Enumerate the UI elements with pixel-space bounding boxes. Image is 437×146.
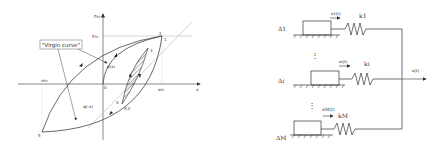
point-3-label: 3 bbox=[150, 48, 153, 53]
x-tick-pos-label: xm bbox=[158, 87, 164, 92]
xi-label: xi(t) bbox=[339, 59, 348, 64]
origin-label: 0 bbox=[104, 85, 107, 90]
xM-label: xM(t) bbox=[322, 107, 335, 112]
delta-M-label: ΔM bbox=[276, 134, 286, 141]
output-label: x(t) bbox=[412, 68, 419, 73]
point-4-label: 4 bbox=[116, 100, 119, 105]
phi-x-label: φ(x) bbox=[107, 64, 116, 69]
spring-slider-model: Δ1 x1(t) k1 ⋮ Δi xi(t) ki x(t) ⋮ ΔM xM(t… bbox=[276, 11, 426, 141]
ellipsis-2: ⋮ bbox=[308, 101, 316, 110]
point-1-label: 1 bbox=[164, 37, 167, 42]
x1-label: x1(t) bbox=[331, 11, 341, 16]
virgin-curve-label: "Virgin curve" bbox=[42, 42, 80, 49]
x-axis-label: x bbox=[196, 87, 199, 92]
diagram-canvas: "Virgin curve" Fm Fm x xm -xm 0 φ(x) -φ(… bbox=[0, 0, 437, 146]
y-tick-label: Fm bbox=[92, 34, 98, 39]
minor-loop bbox=[122, 48, 148, 104]
point-42-label: 4,2 bbox=[124, 106, 131, 111]
k1-label: k1 bbox=[359, 12, 366, 19]
hysteresis-plot: "Virgin curve" Fm Fm x xm -xm 0 φ(x) -φ(… bbox=[18, 14, 200, 140]
element-1 bbox=[293, 18, 402, 38]
point-2-label: 2 bbox=[159, 31, 162, 36]
x-tick-neg-label: -xm bbox=[40, 78, 48, 83]
kM-label: kM bbox=[338, 112, 348, 119]
element-i bbox=[293, 66, 402, 88]
ki-label: ki bbox=[364, 60, 370, 67]
point-5-label: 5 bbox=[38, 133, 41, 138]
ellipsis-1: ⋮ bbox=[311, 51, 319, 60]
delta-i-label: Δi bbox=[278, 77, 284, 84]
y-axis-label: Fm bbox=[94, 14, 100, 19]
phi-neg-x-label: -φ(-x) bbox=[82, 104, 93, 109]
element-M bbox=[290, 116, 402, 138]
delta-1-label: Δ1 bbox=[278, 25, 286, 32]
